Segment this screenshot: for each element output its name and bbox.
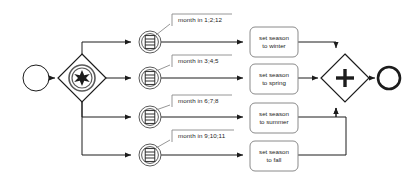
annotation-label-spring: month in 3;4;5 bbox=[178, 57, 219, 64]
task-label-summer-line1: set season bbox=[250, 110, 298, 118]
annotation-leader-fall bbox=[156, 140, 170, 148]
timer-icon bbox=[145, 149, 155, 162]
task-label-summer: set season to summer bbox=[250, 110, 298, 126]
event-based-gateway[interactable] bbox=[58, 54, 106, 102]
annotation-leader-summer bbox=[156, 105, 170, 110]
flow-gateway-to-winter-event bbox=[82, 42, 131, 54]
flow-summer-task-to-join bbox=[298, 108, 336, 117]
annotation-label-winter: month in 1;2;12 bbox=[178, 16, 222, 23]
timer-intermediate-event-winter[interactable] bbox=[139, 31, 161, 53]
task-label-summer-line2: to summer bbox=[250, 118, 298, 126]
annotation-leader-spring bbox=[156, 65, 170, 71]
task-label-spring-line2: to spring bbox=[250, 79, 298, 87]
bpmn-diagram-canvas: month in 1;2;12 month in 3;4;5 month in … bbox=[0, 0, 416, 184]
task-label-fall-line1: set season bbox=[250, 148, 298, 156]
timer-icon bbox=[145, 36, 155, 49]
diagram-vector-layer bbox=[0, 0, 416, 184]
task-label-fall: set season to fall bbox=[250, 148, 298, 164]
task-label-fall-line2: to fall bbox=[250, 156, 298, 164]
annotation-label-fall: month in 9;10;11 bbox=[178, 132, 225, 139]
task-label-winter: set season to winter bbox=[250, 34, 298, 50]
timer-icon bbox=[145, 111, 155, 124]
flow-fall-task-to-join bbox=[298, 108, 346, 155]
parallel-gateway[interactable] bbox=[321, 54, 369, 102]
annotation-leader-winter bbox=[156, 24, 170, 35]
start-event[interactable] bbox=[23, 65, 49, 91]
task-label-winter-line1: set season bbox=[250, 34, 298, 42]
task-label-winter-line2: to winter bbox=[250, 42, 298, 50]
task-label-spring-line1: set season bbox=[250, 71, 298, 79]
flow-winter-task-to-join bbox=[298, 42, 336, 48]
flow-gateway-to-summer-event bbox=[82, 102, 131, 117]
timer-icon bbox=[145, 72, 155, 85]
flow-gateway-to-fall-event bbox=[82, 102, 131, 155]
annotation-label-summer: month in 6;7;8 bbox=[178, 97, 219, 104]
end-event[interactable] bbox=[378, 67, 400, 89]
task-label-spring: set season to spring bbox=[250, 71, 298, 87]
